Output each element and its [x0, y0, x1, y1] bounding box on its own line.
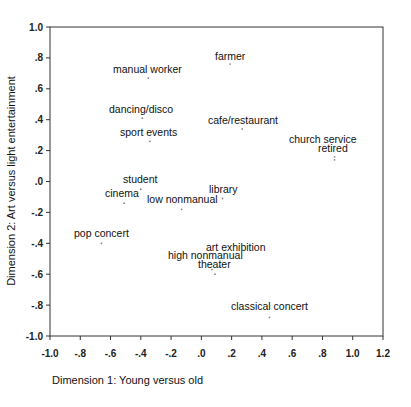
y-axis: 1.0.8.6.4.2.0-.2-.4-.6-.8-1.0: [26, 22, 50, 342]
point-labels: farmermanual workerdancing/discocafe/res…: [74, 50, 357, 312]
y-tick-label: 1.0: [29, 22, 43, 33]
y-tick-label: .6: [35, 83, 44, 94]
data-point: [241, 128, 243, 130]
y-tick-label: -1.0: [26, 331, 44, 342]
x-tick-label: -1.0: [41, 348, 59, 359]
data-point: [141, 117, 143, 119]
y-tick-label: .0: [35, 176, 44, 187]
plot-frame: [50, 27, 383, 336]
data-point: [181, 208, 183, 210]
data-point: [334, 159, 336, 161]
y-tick-label: -.6: [31, 269, 43, 280]
point-label: pop concert: [74, 227, 129, 239]
x-tick-label: .4: [258, 348, 267, 359]
data-point: [229, 63, 231, 65]
x-tick-label: 1.2: [376, 348, 390, 359]
x-tick-label: .0: [197, 348, 206, 359]
point-label: sport events: [120, 126, 177, 138]
x-tick-label: -.2: [165, 348, 177, 359]
data-point: [101, 242, 103, 244]
x-axis-title: Dimension 1: Young versus old: [52, 374, 203, 386]
x-axis: -1.0-.8-.6-.4-.2.0.2.4.6.81.01.2: [41, 336, 390, 359]
data-point: [149, 140, 151, 142]
data-point: [269, 317, 271, 319]
point-label: cafe/restaurant: [208, 114, 278, 126]
data-point: [123, 202, 125, 204]
point-label: cinema: [105, 187, 139, 199]
x-tick-label: -.8: [74, 348, 86, 359]
point-label: theater: [198, 258, 231, 270]
point-label: low nonmanual: [147, 193, 218, 205]
x-tick-label: .2: [227, 348, 236, 359]
point-label: manual worker: [113, 63, 182, 75]
point-label: classical concert: [231, 300, 308, 312]
point-label: retired: [318, 142, 348, 154]
y-tick-label: .4: [35, 114, 44, 125]
x-tick-label: -.4: [135, 348, 147, 359]
y-tick-label: -.8: [31, 300, 43, 311]
x-tick-label: .6: [288, 348, 297, 359]
data-point: [334, 156, 336, 158]
point-label: student: [123, 173, 158, 185]
y-axis-title: Dimension 2: Art versus light entertainm…: [5, 76, 17, 286]
data-point: [222, 198, 224, 200]
scatter-chart: 1.0.8.6.4.2.0-.2-.4-.6-.8-1.0 -1.0-.8-.6…: [0, 0, 411, 407]
point-label: farmer: [215, 50, 246, 62]
x-tick-label: 1.0: [346, 348, 360, 359]
data-point: [140, 188, 142, 190]
y-tick-label: .2: [35, 145, 44, 156]
data-point: [214, 273, 216, 275]
point-label: dancing/disco: [109, 103, 173, 115]
x-tick-label: -.6: [105, 348, 117, 359]
data-point: [147, 77, 149, 79]
x-tick-label: .8: [318, 348, 327, 359]
y-tick-label: .8: [35, 52, 44, 63]
y-tick-label: -.2: [31, 207, 43, 218]
y-tick-label: -.4: [31, 238, 43, 249]
